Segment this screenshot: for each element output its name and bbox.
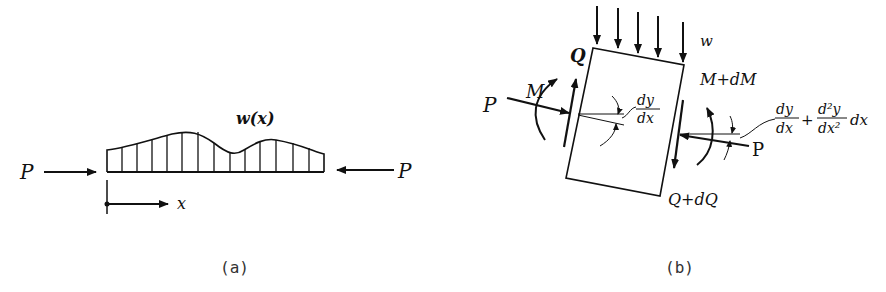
left-force-label: P bbox=[19, 160, 34, 184]
right-shear-label: Q+dQ bbox=[668, 190, 718, 209]
right-moment-arrow-icon bbox=[697, 108, 713, 165]
left-shear-label: Q bbox=[570, 45, 586, 66]
distributed-load-diagram bbox=[107, 132, 324, 172]
right-force-label-b: P bbox=[752, 139, 764, 160]
right-slope-den1: dx bbox=[776, 120, 793, 136]
left-slope-angle bbox=[578, 96, 636, 146]
right-force-label: P bbox=[397, 159, 412, 183]
right-slope-num2: d²y bbox=[818, 101, 842, 117]
right-slope-plus: + bbox=[801, 111, 814, 129]
load-label-wx: w(x) bbox=[236, 109, 274, 128]
beam-element bbox=[566, 48, 684, 196]
right-moment-label: M+dM bbox=[699, 70, 757, 89]
right-slope-num1: dy bbox=[776, 101, 794, 117]
right-axial-force-arrow-icon bbox=[680, 135, 749, 146]
right-slope-tail: dx bbox=[850, 111, 869, 129]
left-moment-label: M bbox=[525, 81, 545, 102]
distributed-load-label: w bbox=[700, 32, 713, 50]
left-force-label-b: P bbox=[482, 93, 497, 117]
left-slope-num: dy bbox=[637, 92, 655, 108]
caption-a: (a) bbox=[220, 258, 249, 277]
beam-column-figure: w(x) P P bbox=[0, 0, 886, 292]
caption-b: (b) bbox=[665, 258, 694, 277]
left-slope-den: dx bbox=[637, 110, 654, 126]
figure-a: w(x) P P bbox=[19, 109, 412, 277]
x-axis-label: x bbox=[177, 194, 186, 213]
distributed-load-arrows-icon bbox=[597, 6, 683, 62]
right-slope-den2: dx² bbox=[818, 120, 841, 136]
figure-b: w Q M P dy dx M+dM Q+dQ P bbox=[482, 6, 869, 277]
